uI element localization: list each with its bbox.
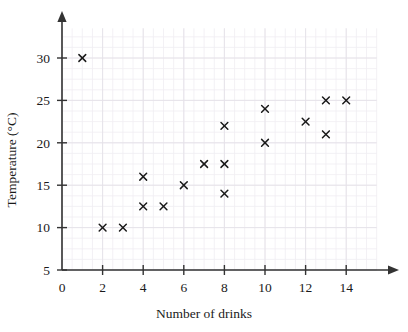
- grid-major-layer: [62, 28, 377, 270]
- x-axis-tick-label: 14: [339, 280, 353, 295]
- y-axis-tick-label: 5: [43, 263, 50, 278]
- x-axis-tick-label: 8: [221, 280, 228, 295]
- y-axis-arrowhead: [57, 11, 66, 22]
- y-axis-title: Temperature (°C): [4, 113, 19, 208]
- x-axis-tick-label: 6: [180, 280, 187, 295]
- y-axis-tick-label: 15: [37, 178, 51, 193]
- x-axis-tick-label: 2: [99, 280, 106, 295]
- x-axis-tick-label: 4: [140, 280, 147, 295]
- x-axis-arrowhead: [388, 265, 399, 274]
- scatter-plot-figure: 0246810121451015202530 Number of drinks …: [0, 0, 408, 332]
- x-axis-tick-label: 10: [258, 280, 272, 295]
- y-axis-tick-label: 20: [37, 136, 51, 151]
- x-axis-tick-label: 12: [299, 280, 313, 295]
- y-axis-tick-label: 25: [37, 93, 51, 108]
- x-axis-title: Number of drinks: [156, 306, 252, 321]
- y-axis-tick-label: 10: [37, 220, 51, 235]
- chart-canvas: 0246810121451015202530 Number of drinks …: [0, 0, 408, 332]
- x-axis-tick-label: 0: [59, 280, 66, 295]
- y-axis-tick-label: 30: [37, 51, 51, 66]
- grid-minor-layer: [62, 28, 377, 270]
